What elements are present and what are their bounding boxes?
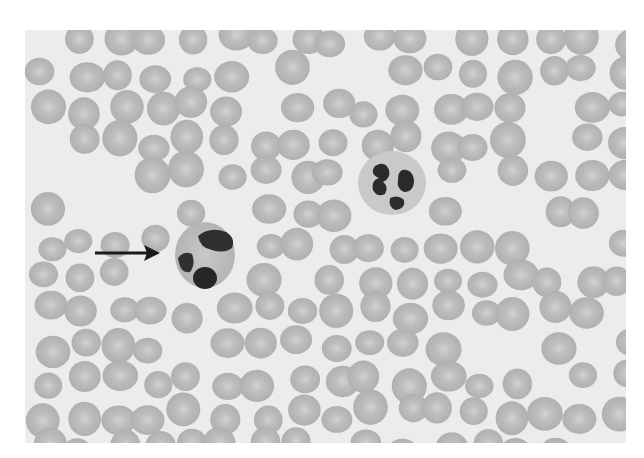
red-blood-cell xyxy=(251,156,282,184)
red-blood-cell xyxy=(562,404,596,434)
red-blood-cell xyxy=(494,93,525,123)
red-blood-cell xyxy=(397,268,428,300)
red-blood-cell xyxy=(316,199,351,232)
red-blood-cell xyxy=(535,161,568,192)
red-blood-cell xyxy=(349,101,377,127)
red-blood-cell xyxy=(432,290,465,320)
red-blood-cell xyxy=(424,233,458,263)
red-blood-cell xyxy=(275,50,310,85)
red-blood-cell xyxy=(100,258,129,286)
red-blood-cell xyxy=(569,297,604,329)
red-blood-cell xyxy=(388,55,422,85)
red-blood-cell xyxy=(497,60,532,95)
red-blood-cell xyxy=(565,55,595,81)
red-blood-cell xyxy=(568,197,599,229)
red-blood-cell xyxy=(66,264,95,292)
red-blood-cell xyxy=(34,373,62,399)
red-blood-cell xyxy=(68,402,101,436)
red-blood-cell xyxy=(290,365,320,393)
red-blood-cell xyxy=(319,294,353,328)
red-blood-cell xyxy=(422,392,452,423)
red-blood-cell xyxy=(214,61,249,92)
red-blood-cell xyxy=(64,296,96,327)
red-blood-cell xyxy=(575,92,610,123)
red-blood-cell xyxy=(426,332,462,366)
red-blood-cell xyxy=(240,370,275,402)
red-blood-cell xyxy=(319,129,348,156)
red-blood-cell xyxy=(503,368,533,399)
red-blood-cell xyxy=(496,401,528,435)
red-blood-cell xyxy=(498,155,528,186)
red-blood-cell xyxy=(209,125,238,155)
red-blood-cell xyxy=(360,291,390,322)
red-blood-cell xyxy=(391,237,419,263)
red-blood-cell xyxy=(539,291,571,323)
red-blood-cell xyxy=(210,96,242,126)
red-blood-cell xyxy=(438,158,467,183)
red-blood-cell xyxy=(147,92,180,126)
red-blood-cell xyxy=(355,330,384,355)
red-blood-cell xyxy=(246,263,281,297)
red-blood-cell xyxy=(431,361,467,392)
red-blood-cell xyxy=(218,164,246,190)
red-blood-cell xyxy=(277,130,310,160)
red-blood-cell xyxy=(429,197,462,226)
red-blood-cell xyxy=(465,374,494,398)
red-blood-cell xyxy=(70,124,100,154)
red-blood-cell xyxy=(434,269,462,293)
red-blood-cell xyxy=(252,194,286,224)
red-blood-cell xyxy=(387,329,419,357)
red-blood-cell xyxy=(353,389,388,425)
red-blood-cell xyxy=(133,338,162,364)
micrograph-canvas xyxy=(25,30,626,443)
red-blood-cell xyxy=(72,329,101,357)
red-blood-cell xyxy=(170,120,203,154)
red-blood-cell xyxy=(64,229,92,253)
red-blood-cell xyxy=(171,362,200,391)
red-blood-cell xyxy=(134,297,167,325)
red-blood-cell xyxy=(527,397,563,431)
red-blood-cell xyxy=(281,93,314,122)
red-blood-cell xyxy=(103,360,139,391)
red-blood-cell xyxy=(314,265,344,295)
red-blood-cell xyxy=(212,373,243,400)
red-blood-cell xyxy=(102,120,137,156)
red-blood-cell xyxy=(36,336,71,368)
red-blood-cell xyxy=(347,360,379,392)
red-blood-cell xyxy=(35,291,68,320)
red-blood-cell xyxy=(540,56,569,85)
red-blood-cell xyxy=(460,230,495,263)
red-blood-cell xyxy=(288,394,321,425)
red-blood-cell xyxy=(255,292,284,320)
red-blood-cell xyxy=(175,86,207,118)
red-blood-cell xyxy=(168,151,204,188)
red-blood-cell xyxy=(322,335,352,362)
red-blood-cell xyxy=(459,60,487,88)
red-blood-cell xyxy=(390,120,421,152)
red-blood-cell xyxy=(139,65,171,93)
red-blood-cell xyxy=(281,228,314,261)
red-blood-cell xyxy=(103,60,132,90)
red-blood-cell xyxy=(460,397,488,425)
red-blood-cell xyxy=(572,124,602,151)
red-blood-cell xyxy=(131,405,165,435)
red-blood-cell xyxy=(288,298,317,324)
red-blood-cell xyxy=(29,262,58,288)
red-blood-cell xyxy=(210,328,244,358)
red-blood-cell xyxy=(25,58,54,86)
neutrophil xyxy=(358,151,426,215)
red-blood-cell xyxy=(110,90,144,124)
red-blood-cell xyxy=(31,90,66,125)
red-blood-cell xyxy=(70,62,106,92)
red-blood-cell xyxy=(424,54,453,81)
red-blood-cell xyxy=(569,362,597,388)
red-blood-cell xyxy=(314,30,345,57)
red-blood-cell xyxy=(38,237,66,261)
red-blood-cell xyxy=(101,328,135,363)
red-blood-cell xyxy=(575,160,609,191)
red-blood-cell xyxy=(217,293,253,324)
red-blood-cell xyxy=(144,371,172,398)
red-blood-cell xyxy=(69,361,101,392)
red-blood-cell xyxy=(166,393,200,427)
red-blood-cell xyxy=(135,157,171,194)
